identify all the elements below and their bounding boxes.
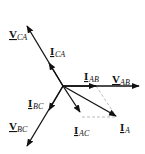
svg-text:AC: AC xyxy=(78,129,90,138)
label-i-bc: I BC xyxy=(28,97,44,111)
phasor-i-a xyxy=(63,86,116,116)
svg-text:V: V xyxy=(9,28,17,40)
svg-text:BC: BC xyxy=(33,102,44,111)
svg-text:V: V xyxy=(9,120,17,132)
label-v-ca: V CA xyxy=(9,28,27,42)
phasor-i-bc xyxy=(49,86,63,110)
svg-text:A: A xyxy=(124,126,130,135)
label-v-ab: V AB xyxy=(112,73,130,87)
label-i-ac: I AC xyxy=(74,124,90,138)
svg-text:V: V xyxy=(112,73,120,85)
label-i-a: I A xyxy=(120,121,130,135)
svg-text:I: I xyxy=(50,45,54,57)
svg-text:BC: BC xyxy=(17,125,28,134)
phasor-diagram: V AB V CA V BC I AB I CA I BC I AC I A xyxy=(0,0,145,154)
svg-text:AB: AB xyxy=(88,75,99,84)
svg-text:I: I xyxy=(74,124,78,136)
svg-text:I: I xyxy=(28,97,32,109)
phasor-i-ca xyxy=(49,63,63,86)
svg-text:CA: CA xyxy=(17,33,27,42)
phasor-i-ac xyxy=(63,86,80,112)
svg-text:AB: AB xyxy=(119,78,130,87)
svg-text:CA: CA xyxy=(55,50,65,59)
dashed-construction-line xyxy=(96,86,116,116)
label-i-ca: I CA xyxy=(50,45,65,59)
svg-text:I: I xyxy=(120,121,124,133)
label-i-ab: I AB xyxy=(84,70,99,84)
label-v-bc: V BC xyxy=(9,120,28,134)
svg-text:I: I xyxy=(84,70,88,82)
